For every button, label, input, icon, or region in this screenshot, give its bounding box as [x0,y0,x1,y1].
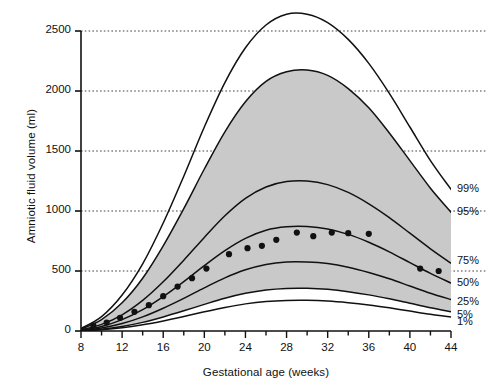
scatter-point [175,284,181,290]
x-tick-label: 12 [107,341,137,353]
x-tick-label: 40 [395,341,425,353]
y-tick-label: 2000 [25,83,71,95]
scatter-point [294,230,300,236]
scatter-point [146,302,152,308]
scatter-point [244,245,250,251]
percentile-label-1pct: 1% [457,315,473,327]
percentile-label-99pct: 99% [457,182,479,194]
scatter-point [90,323,96,329]
scatter-point [345,230,351,236]
plot-canvas [0,0,487,388]
x-tick-label: 32 [313,341,343,353]
scatter-point [329,230,335,236]
x-tick-label: 36 [354,341,384,353]
x-tick-label: 28 [272,341,302,353]
percentile-label-95pct: 95% [457,205,479,217]
percentile-label-25pct: 25% [457,295,479,307]
percentile-band-5-95 [81,70,451,331]
scatter-point [310,233,316,239]
scatter-point [131,309,137,315]
scatter-point [259,243,265,249]
x-tick-label: 24 [230,341,260,353]
y-tick-label: 2500 [25,23,71,35]
scatter-point [417,266,423,272]
scatter-point [366,231,372,237]
scatter-point [189,275,195,281]
scatter-point [117,315,123,321]
y-tick-label: 1500 [25,143,71,155]
y-tick-label: 1000 [25,203,71,215]
y-tick-label: 0 [25,323,71,335]
y-tick-label: 500 [25,263,71,275]
percentile-label-50pct: 50% [457,276,479,288]
scatter-point [226,251,232,257]
scatter-point [436,268,442,274]
x-tick-label: 20 [189,341,219,353]
x-tick-label: 8 [66,341,96,353]
percentile-label-75pct: 75% [457,254,479,266]
scatter-point [104,320,110,326]
scatter-point [273,237,279,243]
x-tick-label: 44 [436,341,466,353]
scatter-point [203,266,209,272]
x-tick-label: 16 [148,341,178,353]
scatter-point [160,293,166,299]
chart-figure: Amniotic fluid volume (ml) Gestational a… [0,0,487,388]
